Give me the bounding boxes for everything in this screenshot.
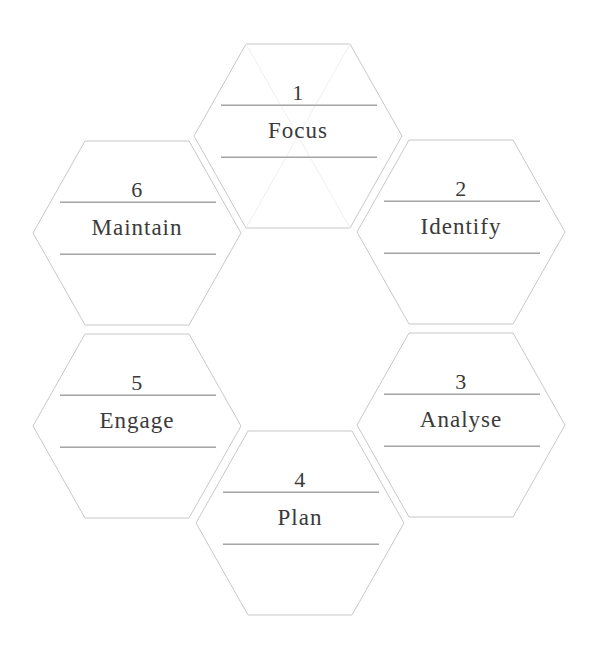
step-label: Maintain	[32, 214, 242, 242]
divider-line	[384, 445, 540, 447]
step-number: 3	[356, 370, 566, 394]
divider-line	[60, 253, 216, 255]
step-number: 5	[32, 371, 242, 395]
step-number: 1	[193, 81, 403, 105]
hex-step-engage: 5 Engage	[32, 333, 242, 519]
divider-line	[221, 104, 377, 106]
divider-line	[384, 252, 540, 254]
divider-line	[221, 156, 377, 158]
step-label: Identify	[356, 213, 566, 241]
step-number: 2	[356, 177, 566, 201]
divider-line	[60, 394, 216, 396]
step-number: 6	[32, 178, 242, 202]
hexagon-cycle-diagram: 1 Focus 2 Identify 3 Analyse 4 Plan	[0, 0, 592, 657]
divider-line	[223, 543, 379, 545]
divider-line	[384, 393, 540, 395]
hex-step-identify: 2 Identify	[356, 139, 566, 325]
divider-line	[60, 446, 216, 448]
step-label: Engage	[32, 407, 242, 435]
divider-line	[60, 201, 216, 203]
hex-step-maintain: 6 Maintain	[32, 140, 242, 326]
divider-line	[384, 200, 540, 202]
divider-line	[223, 491, 379, 493]
